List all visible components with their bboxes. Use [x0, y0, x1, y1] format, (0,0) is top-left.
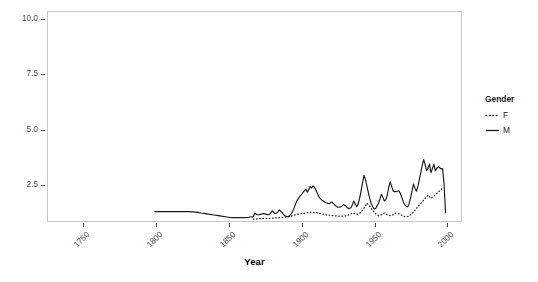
x-tick-mark	[375, 223, 376, 227]
y-tick-mark	[41, 185, 45, 186]
x-tick-label: 1800	[137, 230, 165, 258]
y-tick-mark	[41, 19, 45, 20]
legend-label: F	[503, 108, 508, 123]
legend-key-f-icon	[485, 108, 500, 123]
x-tick-mark	[447, 223, 448, 227]
legend-key-m-icon	[485, 123, 500, 138]
legend-entry-f[interactable]: F	[485, 108, 535, 123]
series-line-f	[253, 188, 442, 219]
legend-entry-m[interactable]: M	[485, 123, 535, 138]
x-axis-title: Year	[47, 256, 462, 267]
x-tick-label: 1750	[64, 230, 92, 258]
y-tick-label: 7.5	[14, 70, 38, 78]
y-tick-mark	[41, 130, 45, 131]
x-tick-mark	[229, 223, 230, 227]
x-tick-mark	[302, 223, 303, 227]
y-tick-label: 2.5	[14, 181, 38, 189]
plot-panel	[47, 11, 462, 222]
x-tick-label: 2000	[428, 230, 456, 258]
legend-label: M	[503, 123, 510, 138]
series-layer	[48, 12, 463, 223]
x-tick-label: 1950	[355, 230, 383, 258]
x-tick-label: 1900	[283, 230, 311, 258]
x-tick-mark	[83, 223, 84, 227]
series-line-m	[154, 160, 445, 218]
x-tick-mark	[156, 223, 157, 227]
y-axis-tick-labels: 2.55.07.510.0	[12, 0, 38, 282]
legend-entries: FM	[485, 108, 535, 138]
y-tick-label: 10.0	[14, 15, 38, 23]
legend: Gender FM	[485, 94, 535, 138]
chart-figure: 5−Year Average 2.55.07.510.0 17501800185…	[0, 0, 538, 282]
x-tick-label: 1850	[210, 230, 238, 258]
legend-title: Gender	[485, 94, 535, 104]
y-tick-label: 5.0	[14, 126, 38, 134]
y-tick-mark	[41, 74, 45, 75]
